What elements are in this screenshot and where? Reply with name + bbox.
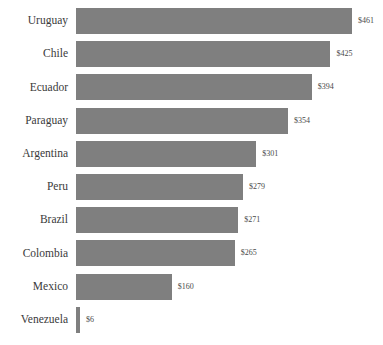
value-label-brazil: $271 bbox=[244, 216, 260, 224]
bar-chart: Uruguay$461Chile$425Ecuador$394Paraguay$… bbox=[0, 0, 383, 345]
bar-row: Peru$279 bbox=[0, 174, 383, 200]
bar-uruguay[interactable] bbox=[76, 8, 352, 34]
category-label-venezuela: Venezuela bbox=[0, 314, 68, 326]
bar-track: $6 bbox=[76, 307, 383, 333]
bar-mexico[interactable] bbox=[76, 274, 172, 300]
bar-paraguay[interactable] bbox=[76, 108, 288, 134]
bar-colombia[interactable] bbox=[76, 240, 235, 266]
value-label-colombia: $265 bbox=[241, 249, 257, 257]
bar-row: Brazil$271 bbox=[0, 207, 383, 233]
bar-venezuela[interactable] bbox=[76, 307, 80, 333]
bar-row: Argentina$301 bbox=[0, 141, 383, 167]
bar-row: Mexico$160 bbox=[0, 274, 383, 300]
category-label-argentina: Argentina bbox=[0, 148, 68, 160]
value-label-paraguay: $354 bbox=[294, 117, 310, 125]
bar-track: $279 bbox=[76, 174, 383, 200]
chart-plot-area: Uruguay$461Chile$425Ecuador$394Paraguay$… bbox=[0, 0, 383, 345]
category-label-peru: Peru bbox=[0, 181, 68, 193]
category-label-mexico: Mexico bbox=[0, 281, 68, 293]
bar-track: $271 bbox=[76, 207, 383, 233]
bar-track: $461 bbox=[76, 8, 383, 34]
bar-track: $394 bbox=[76, 74, 383, 100]
category-label-colombia: Colombia bbox=[0, 248, 68, 260]
bar-track: $425 bbox=[76, 41, 383, 67]
value-label-uruguay: $461 bbox=[358, 17, 374, 25]
bar-track: $301 bbox=[76, 141, 383, 167]
bar-row: Chile$425 bbox=[0, 41, 383, 67]
value-label-argentina: $301 bbox=[262, 150, 278, 158]
category-label-brazil: Brazil bbox=[0, 214, 68, 226]
value-label-mexico: $160 bbox=[178, 283, 194, 291]
value-label-peru: $279 bbox=[249, 183, 265, 191]
category-label-chile: Chile bbox=[0, 48, 68, 60]
bar-row: Uruguay$461 bbox=[0, 8, 383, 34]
bar-row: Ecuador$394 bbox=[0, 74, 383, 100]
bar-row: Paraguay$354 bbox=[0, 108, 383, 134]
value-label-venezuela: $6 bbox=[86, 316, 94, 324]
bar-track: $160 bbox=[76, 274, 383, 300]
bar-chile[interactable] bbox=[76, 41, 330, 67]
bar-row: Venezuela$6 bbox=[0, 307, 383, 333]
bar-row: Colombia$265 bbox=[0, 240, 383, 266]
bar-brazil[interactable] bbox=[76, 207, 238, 233]
category-label-ecuador: Ecuador bbox=[0, 82, 68, 94]
category-label-paraguay: Paraguay bbox=[0, 115, 68, 127]
bar-argentina[interactable] bbox=[76, 141, 256, 167]
value-label-ecuador: $394 bbox=[318, 83, 334, 91]
bar-peru[interactable] bbox=[76, 174, 243, 200]
bar-ecuador[interactable] bbox=[76, 74, 312, 100]
value-label-chile: $425 bbox=[336, 50, 352, 58]
bar-track: $354 bbox=[76, 108, 383, 134]
category-label-uruguay: Uruguay bbox=[0, 15, 68, 27]
bar-track: $265 bbox=[76, 240, 383, 266]
